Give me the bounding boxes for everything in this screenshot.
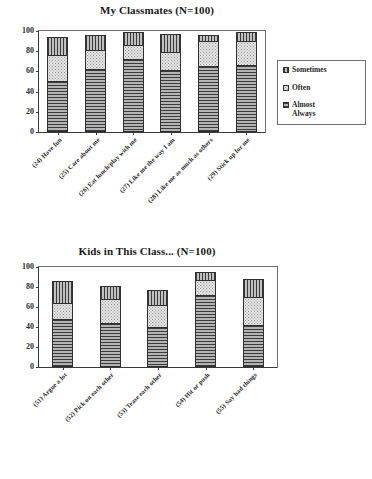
bar-segment-often	[86, 51, 105, 70]
stacked-bar	[243, 279, 264, 367]
y-tick-label: 0	[30, 363, 39, 371]
bar-segment-sometimes	[161, 35, 180, 53]
bar-segment-sometimes	[48, 38, 67, 56]
bar-segment-never	[101, 324, 120, 366]
bar-segment-almost-always	[86, 70, 105, 131]
stacked-bar	[85, 35, 106, 132]
bar-segment-sometimes	[101, 300, 120, 324]
y-tick-label: 80	[26, 47, 39, 55]
bar-segment-never	[53, 320, 72, 366]
bar-segment-often	[199, 42, 218, 67]
bar-segment-often	[53, 282, 72, 304]
y-tick-label: 20	[26, 108, 39, 116]
y-tick-label: 80	[26, 283, 39, 291]
stacked-bar	[198, 35, 219, 132]
x-axis-label: (53) Tease each other	[115, 371, 163, 419]
bar-segment-often	[124, 46, 143, 60]
bar-segment-never	[196, 296, 215, 366]
bar-slot	[182, 267, 230, 367]
chart-title-classmates: My Classmates (N=100)	[0, 0, 372, 16]
bar-group-classmates	[39, 31, 265, 132]
legend-swatch-icon	[283, 67, 289, 73]
bar-segment-almost-always	[237, 66, 256, 131]
x-axis-label: (29) Stick up for me	[206, 136, 251, 181]
bar-slot	[114, 31, 152, 132]
bar-slot	[39, 31, 77, 132]
x-axis-label: (52) Pick on each other	[64, 371, 116, 423]
bar-segment-sometimes	[148, 306, 167, 328]
bar-segment-sometimes	[196, 281, 215, 296]
bar-segment-never	[244, 326, 263, 366]
bar-slot	[39, 267, 87, 367]
bar-segment-often	[101, 287, 120, 300]
legend-label: Sometimes	[292, 66, 327, 75]
bar-segment-often	[161, 53, 180, 71]
y-tick-label: 0	[30, 128, 39, 136]
plot-area-kids: (51) Argue a lot(52) Pick on each other(…	[38, 266, 278, 368]
bar-segment-almost-always	[48, 82, 67, 131]
y-tick-label: 60	[26, 67, 39, 75]
legend-item: Often	[283, 84, 359, 93]
bar-segment-often	[148, 291, 167, 306]
bar-slot	[227, 31, 265, 132]
bar-group-kids	[39, 267, 277, 367]
legend-swatch-icon	[283, 102, 289, 108]
stacked-bar	[236, 32, 257, 132]
x-axis-label: (28) Like me as much as others	[146, 136, 214, 204]
bar-slot	[190, 31, 228, 132]
bar-segment-sometimes	[124, 33, 143, 46]
x-axis-label: (55) Say bad things	[214, 371, 258, 415]
stacked-bar	[147, 290, 168, 367]
x-axis-label: (51) Argue a lot	[31, 371, 68, 408]
bar-segment-never	[148, 328, 167, 366]
bar-segment-almost-always	[124, 60, 143, 131]
bar-segment-sometimes	[237, 33, 256, 42]
legend-label: Almost Always	[292, 101, 315, 118]
y-tick-label: 100	[22, 27, 39, 35]
chart-title-kids: Kids in This Class... (N=100)	[0, 240, 372, 257]
legend-item: Sometimes	[283, 66, 359, 75]
y-tick-label: 40	[26, 323, 39, 331]
stacked-bar	[52, 281, 73, 367]
bar-segment-often	[48, 56, 67, 82]
bar-segment-almost-always	[161, 71, 180, 131]
chart-kids-in-this-class: Kids in This Class... (N=100) (51) Argue…	[0, 240, 372, 479]
stacked-bar	[123, 32, 144, 132]
bar-segment-often	[237, 42, 256, 66]
bar-segment-sometimes	[244, 298, 263, 326]
bar-segment-often	[196, 273, 215, 281]
stacked-bar	[195, 272, 216, 367]
bar-slot	[77, 31, 115, 132]
stacked-bar	[160, 34, 181, 132]
bar-segment-almost-always	[199, 67, 218, 131]
legend-swatch-icon	[283, 85, 289, 91]
bar-slot	[87, 267, 135, 367]
bar-slot	[229, 267, 277, 367]
x-axis-label: (24) Have fun	[30, 136, 63, 169]
y-tick-label: 60	[26, 303, 39, 311]
bar-segment-sometimes	[53, 304, 72, 320]
bar-segment-often	[244, 280, 263, 298]
bar-slot	[134, 267, 182, 367]
bar-segment-sometimes	[86, 36, 105, 51]
stacked-bar	[100, 286, 121, 367]
chart-my-classmates: My Classmates (N=100) (24) Have fun(25) …	[0, 0, 372, 240]
y-tick-label: 100	[22, 263, 39, 271]
legend-item: Almost Always	[283, 101, 359, 118]
legend-label: Often	[292, 84, 310, 93]
bar-slot	[152, 31, 190, 132]
x-axis-classmates	[38, 132, 265, 133]
stacked-bar	[47, 37, 68, 132]
plot-area-classmates: (24) Have fun(25) Care about me(26) Eat …	[38, 30, 266, 133]
y-tick-label: 20	[26, 343, 39, 351]
y-tick-label: 40	[26, 88, 39, 96]
x-axis-label: (54) Hit or push	[173, 371, 210, 408]
legend-classmates: SometimesOftenAlmost Always	[277, 60, 366, 125]
